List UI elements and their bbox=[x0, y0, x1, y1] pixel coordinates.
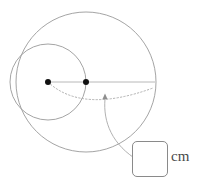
small-circle-center-dot bbox=[45, 79, 51, 85]
callout-arrowhead-icon bbox=[102, 94, 107, 100]
geometry-figure: cm bbox=[0, 0, 204, 189]
dotted-measure-arc bbox=[48, 82, 153, 100]
unit-label: cm bbox=[171, 149, 190, 164]
large-circle-center-dot bbox=[83, 79, 89, 85]
answer-input[interactable] bbox=[132, 141, 168, 177]
